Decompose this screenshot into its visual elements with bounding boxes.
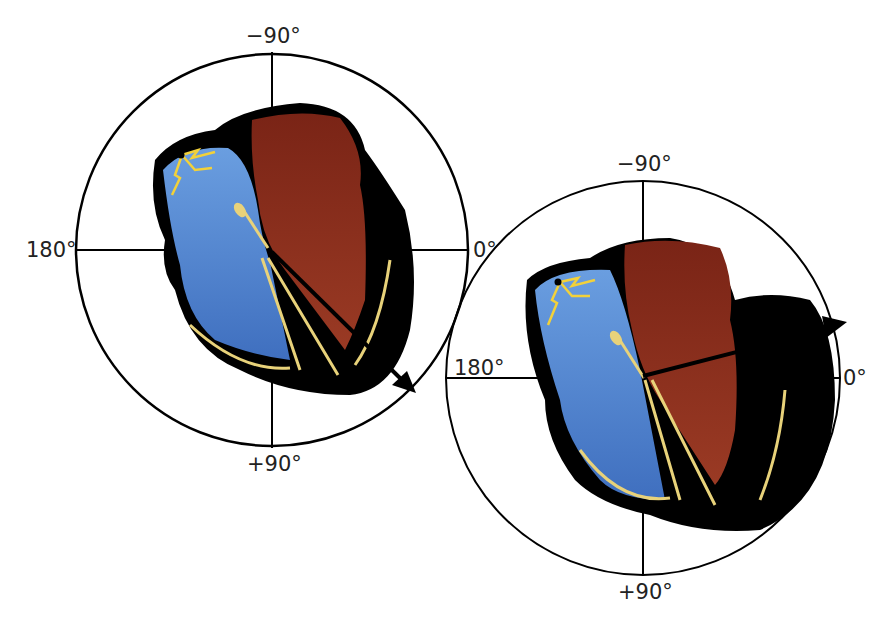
- label-plus-90: +90°: [618, 582, 673, 603]
- label-0: 0°: [473, 240, 497, 261]
- label-minus-90: −90°: [617, 154, 672, 175]
- panel-left-axis-deviation: [446, 180, 847, 576]
- panel-normal-axis: [76, 52, 468, 448]
- label-minus-90: −90°: [246, 26, 301, 47]
- label-180: 180°: [454, 358, 505, 379]
- label-plus-90: +90°: [247, 454, 302, 475]
- heart-icon: [525, 238, 835, 531]
- label-180: 180°: [26, 240, 77, 261]
- label-0: 0°: [843, 368, 867, 389]
- diagram-canvas: [0, 0, 887, 628]
